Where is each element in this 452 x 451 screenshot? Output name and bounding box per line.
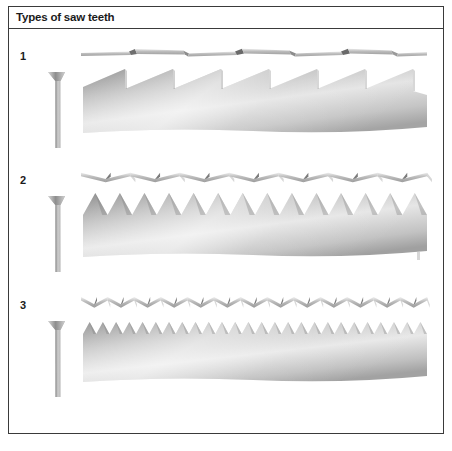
figure-title-bar: Types of saw teeth (9, 7, 443, 29)
saw-blade-side-view (81, 189, 429, 267)
saw-row-2: 2 (9, 157, 443, 281)
blade-set-top-view (79, 163, 429, 189)
blade-cross-section (47, 194, 69, 274)
row-number-label: 3 (20, 299, 26, 311)
saw-row-3: 3 (9, 282, 443, 406)
saw-blade-side-view (81, 314, 429, 392)
row-number-label: 2 (20, 174, 26, 186)
blade-set-top-view (79, 288, 429, 314)
saw-row-1: 1 (9, 33, 443, 157)
figure-root: Types of saw teeth 1 (0, 0, 452, 451)
blade-set-top-view (79, 39, 429, 65)
stray-mark (417, 252, 420, 260)
blade-cross-section (47, 319, 69, 399)
page-title: Types of saw teeth (16, 11, 114, 23)
blade-cross-section (47, 70, 69, 150)
row-number-label: 1 (20, 50, 26, 62)
figure-frame: Types of saw teeth 1 (8, 6, 444, 434)
saw-blade-side-view (81, 65, 429, 143)
